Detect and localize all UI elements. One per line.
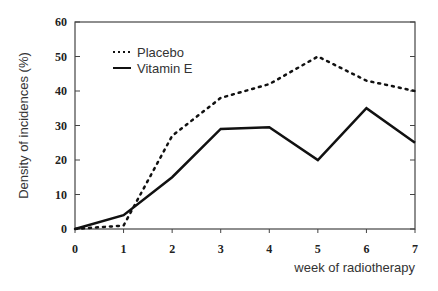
y-tick-label: 60 (55, 15, 67, 29)
x-tick-label: 5 (315, 242, 321, 256)
chart-container: 010203040506001234567week of radiotherap… (0, 0, 438, 291)
y-tick-label: 30 (55, 119, 67, 133)
x-tick-label: 0 (72, 242, 78, 256)
y-tick-label: 50 (55, 50, 67, 64)
x-tick-label: 1 (121, 242, 127, 256)
y-axis-label: Density of incidences (%) (16, 52, 31, 199)
y-tick-label: 0 (61, 222, 67, 236)
plot-frame (75, 22, 415, 229)
series-vitamin-e (75, 108, 415, 229)
x-tick-label: 6 (363, 242, 369, 256)
x-axis-label: week of radiotherapy (293, 260, 415, 275)
x-tick-label: 4 (266, 242, 272, 256)
y-tick-label: 10 (55, 188, 67, 202)
y-tick-label: 40 (55, 84, 67, 98)
legend-label: Vitamin E (137, 61, 193, 76)
x-tick-label: 3 (218, 242, 224, 256)
y-tick-label: 20 (55, 153, 67, 167)
x-tick-label: 7 (412, 242, 418, 256)
series-placebo (75, 57, 415, 230)
x-tick-label: 2 (169, 242, 175, 256)
legend-label: Placebo (137, 45, 184, 60)
line-chart: 010203040506001234567week of radiotherap… (0, 0, 438, 291)
